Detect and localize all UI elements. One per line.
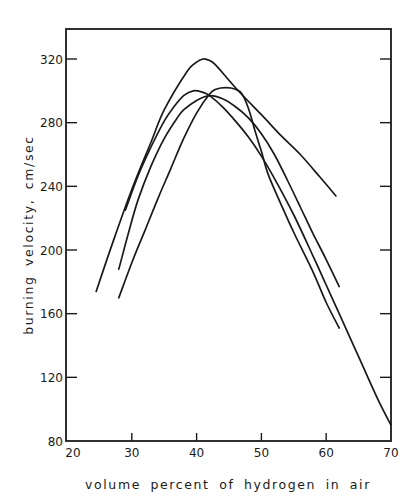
x-tick-label: 20 xyxy=(65,446,80,460)
y-tick-label: 320 xyxy=(40,53,63,67)
y-tick-label: 240 xyxy=(40,180,63,194)
x-tick-label: 60 xyxy=(319,446,334,460)
y-tick-label: 160 xyxy=(40,307,63,321)
y-axis-title: burning velocity, cm/sec xyxy=(21,135,36,335)
y-tick-label: 200 xyxy=(40,244,63,258)
y-axis-ticks: 80120160200240280320 xyxy=(40,53,391,449)
curve-3-line xyxy=(119,88,339,328)
x-axis-title: volume percent of hydrogen in air xyxy=(85,477,371,492)
data-series xyxy=(96,59,391,425)
burning-velocity-chart: 80120160200240280320 203040506070 volume… xyxy=(0,0,418,497)
y-tick-label: 120 xyxy=(40,371,63,385)
y-tick-label: 280 xyxy=(40,116,63,130)
x-tick-label: 50 xyxy=(254,446,269,460)
y-tick-label: 80 xyxy=(48,435,63,449)
x-tick-label: 30 xyxy=(124,446,139,460)
curve-1-line xyxy=(96,59,336,291)
x-tick-label: 40 xyxy=(189,446,204,460)
x-axis-ticks: 203040506070 xyxy=(65,433,398,460)
x-tick-label: 70 xyxy=(383,446,398,460)
